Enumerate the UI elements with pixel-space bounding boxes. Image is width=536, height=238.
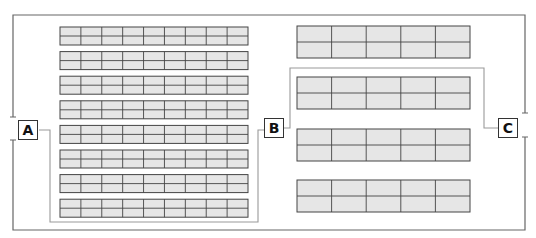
table-left (60, 27, 248, 45)
label-c: C (498, 118, 518, 138)
label-b: B (264, 118, 284, 138)
table-left (60, 52, 248, 70)
table-right (297, 129, 470, 161)
table-left (60, 175, 248, 193)
table-left (60, 125, 248, 143)
table-left (60, 150, 248, 168)
left-table-column (60, 27, 248, 217)
label-c-text: C (503, 121, 513, 135)
table-right (297, 77, 470, 109)
label-b-text: B (269, 121, 280, 135)
table-right (297, 180, 470, 212)
table-left (60, 199, 248, 217)
right-table-column (297, 26, 470, 212)
table-right (297, 26, 470, 58)
table-left (60, 101, 248, 119)
table-left (60, 76, 248, 94)
label-a: A (18, 120, 38, 140)
seating-diagram: A B C (0, 0, 536, 238)
label-a-text: A (23, 123, 34, 137)
